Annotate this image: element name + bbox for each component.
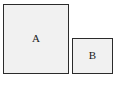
square-b-label: B: [89, 50, 96, 61]
square-a: A: [3, 4, 69, 74]
square-a-label: A: [32, 33, 40, 44]
square-b: B: [72, 38, 113, 74]
figure-canvas: A B: [0, 0, 121, 85]
